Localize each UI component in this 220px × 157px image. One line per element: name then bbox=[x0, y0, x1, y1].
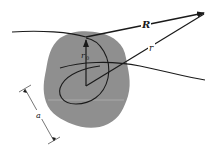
diagram-canvas: R r r 0 a bbox=[0, 0, 220, 157]
label-r0-subscript: 0 bbox=[86, 55, 89, 61]
label-r: r bbox=[149, 43, 154, 53]
charge-region-blob bbox=[44, 31, 130, 128]
label-a: a bbox=[36, 111, 41, 120]
label-R: R bbox=[141, 19, 150, 30]
